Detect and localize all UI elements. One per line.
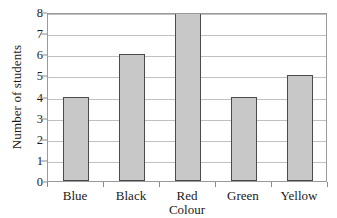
bar-slot [104,14,160,181]
bar-slot [216,14,272,181]
y-axis-title: Number of students [6,2,28,192]
bar[interactable] [119,54,145,181]
x-axis-tick-mark [327,182,328,187]
bar[interactable] [63,97,89,182]
bar[interactable] [287,75,313,181]
plot-area [47,13,327,182]
bar-slot [48,14,104,181]
x-axis-title: Colour [47,202,327,217]
bar-chart-figure: Number of students 012345678 BlueBlackRe… [0,0,337,218]
bar[interactable] [231,97,257,182]
bar[interactable] [175,13,201,181]
bar-slot [160,14,216,181]
bar-slot [272,14,327,181]
bar-series [48,14,326,181]
